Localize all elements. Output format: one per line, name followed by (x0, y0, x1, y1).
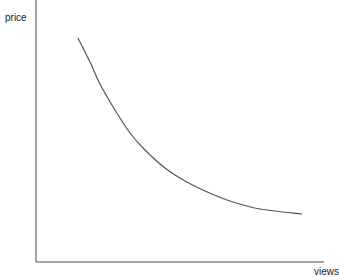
price-curve (78, 38, 302, 214)
y-axis-label: price (5, 12, 27, 23)
x-axis-label: views (314, 266, 339, 277)
